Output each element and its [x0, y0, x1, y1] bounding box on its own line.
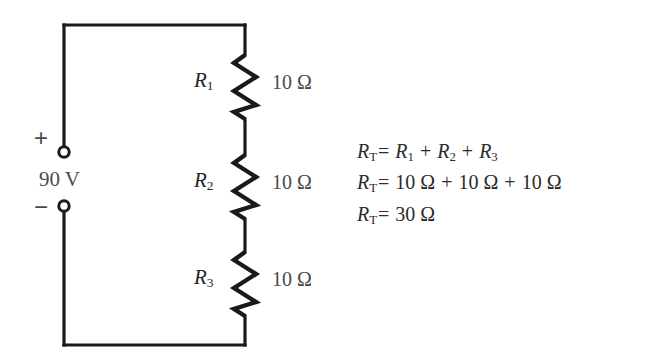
source-voltage-label: 90 V	[39, 169, 80, 190]
eq2-op1: +	[440, 171, 453, 193]
eq1-term3-sub: 3	[491, 150, 497, 164]
eq1-term2: R	[437, 140, 449, 162]
eq2-lhs-sub: T	[369, 182, 377, 196]
eq1-term3: R	[479, 140, 491, 162]
resistor-2-subscript: 2	[207, 178, 214, 193]
resistor-1-subscript: 1	[207, 78, 214, 93]
eq3-equals: =	[377, 203, 390, 225]
eq1-op2: +	[461, 140, 474, 162]
resistor-2-label: R2	[194, 170, 214, 193]
eq2-term1: 10 Ω	[395, 171, 435, 193]
resistor-3-symbol	[234, 252, 256, 316]
eq1-term1-sub: 1	[408, 150, 414, 164]
resistor-3-subscript: 3	[207, 275, 214, 290]
equation-line-3: RT= 30 Ω	[357, 202, 562, 233]
resistor-2-value: 10 Ω	[272, 172, 312, 192]
eq1-term2-sub: 2	[449, 150, 455, 164]
equation-line-1: RT= R1 + R2 + R3	[357, 139, 562, 170]
eq2-term2: 10 Ω	[458, 171, 498, 193]
resistor-1-symbol-text: R	[194, 68, 207, 92]
eq2-op2: +	[503, 171, 516, 193]
resistor-1-label: R1	[194, 70, 214, 93]
resistor-2-symbol	[234, 155, 256, 219]
eq2-term3: 10 Ω	[522, 171, 562, 193]
negative-polarity-sign: −	[34, 195, 48, 219]
circuit-diagram: + − 90 V R1 10 Ω R2 10 Ω R3 10 Ω RT= R1 …	[0, 0, 655, 363]
equations-block: RT= R1 + R2 + R3 RT= 10 Ω + 10 Ω + 10 Ω …	[357, 139, 562, 233]
positive-polarity-sign: +	[34, 126, 48, 150]
resistor-2-symbol-text: R	[194, 168, 207, 192]
eq1-term1: R	[395, 140, 407, 162]
eq3-result: 30 Ω	[395, 203, 435, 225]
eq1-equals: =	[377, 140, 390, 162]
resistor-1-symbol	[234, 55, 256, 119]
eq1-op1: +	[419, 140, 432, 162]
negative-terminal-circle	[59, 201, 69, 211]
equation-line-2: RT= 10 Ω + 10 Ω + 10 Ω	[357, 170, 562, 201]
eq1-lhs-symbol: R	[357, 140, 369, 162]
eq3-lhs-sub: T	[369, 213, 377, 227]
resistor-3-value: 10 Ω	[272, 269, 312, 289]
eq3-lhs-symbol: R	[357, 203, 369, 225]
eq2-equals: =	[377, 171, 390, 193]
resistor-3-symbol-text: R	[194, 265, 207, 289]
resistor-1-value: 10 Ω	[272, 72, 312, 92]
positive-terminal-circle	[59, 147, 69, 157]
resistor-3-label: R3	[194, 267, 214, 290]
eq2-lhs-symbol: R	[357, 171, 369, 193]
eq1-lhs-sub: T	[369, 150, 377, 164]
